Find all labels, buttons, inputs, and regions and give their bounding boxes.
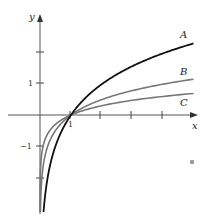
curve-c <box>40 93 193 212</box>
y-axis-arrow-icon <box>37 14 43 22</box>
curve-label-a: A <box>179 29 187 40</box>
curve-a <box>44 43 194 212</box>
x-tick-label-1: 1 <box>68 120 73 129</box>
x-axis-label: x <box>192 120 198 131</box>
curve-label-c: C <box>180 97 188 108</box>
curve-label-b: B <box>179 66 187 77</box>
y-tick-label-neg-1: −1 <box>20 142 32 151</box>
stray-mark <box>190 160 194 164</box>
x-axis-arrow-icon <box>190 112 198 118</box>
y-axis-label: y <box>28 11 35 22</box>
y-tick-label-1: 1 <box>28 79 33 88</box>
log-curves-chart: 1 1 −1 x y A B C <box>0 0 209 224</box>
curve-b <box>40 79 193 212</box>
